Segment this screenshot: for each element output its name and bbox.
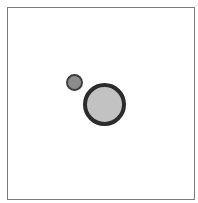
small-circle [66,74,83,91]
large-circle [83,83,126,126]
